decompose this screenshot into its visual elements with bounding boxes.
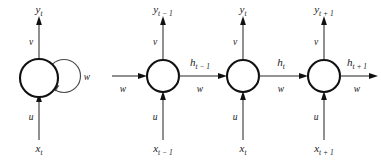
folded-output-weight-label: v <box>29 37 34 47</box>
unit0-output-label: yt − 1 <box>152 3 173 18</box>
incoming-weight-label: w <box>120 84 127 94</box>
unit1-input-label: xt <box>239 142 248 157</box>
conn0-hidden-label: ht − 1 <box>190 56 210 71</box>
folded-input-label: xt <box>35 142 44 157</box>
unit2-output-label: yt + 1 <box>313 3 334 18</box>
unit1-input-weight-label: u <box>233 112 238 122</box>
folded-recurrent-weight-label: w <box>84 72 91 82</box>
unit0-output-weight-label: v <box>153 37 158 47</box>
rnn-unit-t-plus-1: yt + 1 v u xt + 1 <box>308 3 340 157</box>
folded-rnn-unit: yt v u xt w <box>20 3 91 157</box>
unit0-input-weight-label: u <box>153 112 158 122</box>
connection-t-minus-1-to-t: ht − 1 w <box>179 56 227 94</box>
unit2-node-circle <box>308 60 340 92</box>
unit2-output-weight-label: v <box>314 37 319 47</box>
connection-t-to-t-plus-1: ht w <box>259 56 308 94</box>
unit2-input-label: xt + 1 <box>313 142 334 157</box>
incoming-arrowhead <box>138 73 147 79</box>
conn0-arrowhead <box>218 73 227 79</box>
unit1-output-label: yt <box>239 3 248 18</box>
chain-incoming-connection: w <box>112 73 147 94</box>
conn1-arrowhead <box>299 73 308 79</box>
rnn-diagram: yt v u xt w w <box>0 0 381 160</box>
rnn-unit-t: yt v u xt <box>227 3 259 157</box>
outgoing-hidden-label: ht + 1 <box>347 56 367 71</box>
conn0-weight-label: w <box>197 84 204 94</box>
conn1-hidden-label: ht <box>277 56 286 71</box>
chain-outgoing-connection: ht + 1 w <box>340 56 378 94</box>
rnn-unit-t-minus-1: yt − 1 v u xt − 1 <box>147 3 179 157</box>
unit2-input-weight-label: u <box>314 112 319 122</box>
unit0-node-circle <box>147 60 179 92</box>
unit0-input-label: xt − 1 <box>152 142 173 157</box>
unit1-node-circle <box>227 60 259 92</box>
outgoing-arrowhead <box>369 73 378 79</box>
conn1-weight-label: w <box>278 84 285 94</box>
unit1-output-weight-label: v <box>233 37 238 47</box>
folded-node-circle <box>20 59 58 97</box>
outgoing-weight-label: w <box>354 84 361 94</box>
folded-input-weight-label: u <box>29 112 34 122</box>
rnn-diagram-canvas: yt v u xt w w <box>0 0 381 160</box>
folded-output-label: yt <box>35 3 44 18</box>
